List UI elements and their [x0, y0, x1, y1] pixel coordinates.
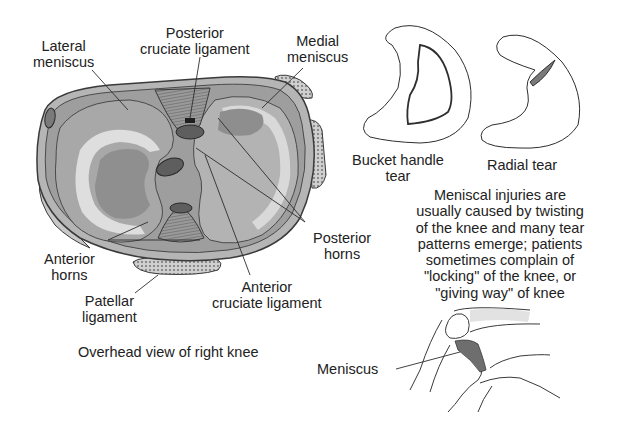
- radial-tear-outline: [481, 35, 580, 148]
- label-meniscus-side-view: Meniscus: [317, 361, 378, 377]
- knee-side-view: [410, 308, 560, 412]
- label-lateral-meniscus: Lateral meniscus: [33, 38, 94, 70]
- label-bucket-handle-tear: Bucket handle tear: [352, 152, 444, 184]
- label-posterior-horns: Posterior horns: [313, 230, 371, 262]
- knee-meniscus-diagram: Lateral meniscus Posterior cruciate liga…: [0, 0, 625, 427]
- label-anterior-horns: Anterior horns: [44, 251, 95, 283]
- label-medial-meniscus: Medial meniscus: [287, 33, 348, 65]
- label-posterior-cruciate-ligament: Posterior cruciate ligament: [140, 25, 250, 57]
- label-patellar-ligament: Patellar ligament: [82, 293, 137, 325]
- label-radial-tear: Radial tear: [487, 157, 557, 173]
- label-anterior-cruciate-ligament: Anterior cruciate ligament: [212, 279, 322, 311]
- caption-overhead-view: Overhead view of right knee: [78, 344, 259, 360]
- meniscus-wedge: [455, 340, 486, 372]
- meniscal-injury-description: Meniscal injuries are usually caused by …: [385, 187, 615, 301]
